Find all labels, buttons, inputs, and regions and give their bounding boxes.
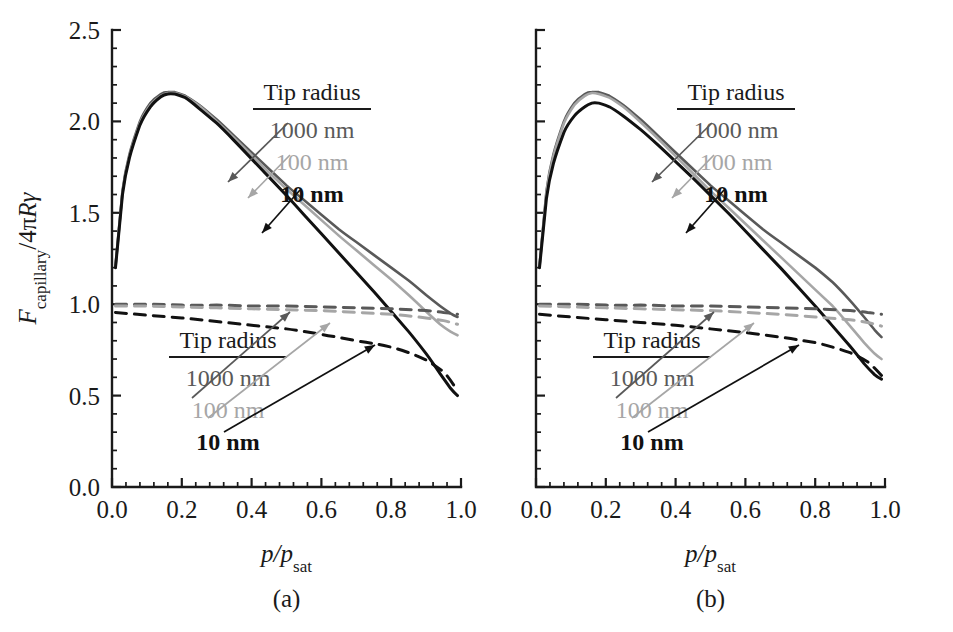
x-tick-label: 1.0 [445,496,476,523]
x-tick-label: 1.0 [869,496,900,523]
x-tick-label: 0.0 [96,496,127,523]
legend-dashed-entry: 1000 nm [610,365,695,391]
y-tick-label: 2.5 [69,17,100,44]
x-tick-label: 0.2 [590,496,621,523]
y-tick-label: 0.5 [69,383,100,410]
figure-container: 0.00.51.01.52.02.50.00.20.40.60.81.0p/ps… [0,0,953,632]
x-tick-label: 0.6 [306,496,337,523]
figure-svg: 0.00.51.01.52.02.50.00.20.40.60.81.0p/ps… [0,0,953,632]
y-tick-label: 1.5 [69,200,100,227]
legend-solid-entry: 100 nm [276,149,349,175]
y-tick-label: 2.0 [69,108,100,135]
x-tick-label: 0.8 [376,496,407,523]
legend-dashed-entry: 100 nm [192,397,265,423]
x-tick-label: 0.0 [520,496,551,523]
legend-solid-entry: 1000 nm [694,117,779,143]
y-tick-label: 1.0 [69,291,100,318]
legend-solid-entry: 10 nm [704,181,767,207]
x-tick-label: 0.8 [800,496,831,523]
legend-solid-entry: 10 nm [280,181,343,207]
legend-dashed-entry: 10 nm [620,429,683,455]
panel-label: (b) [696,585,725,613]
x-tick-label: 0.4 [236,496,268,523]
panel-label: (a) [273,585,301,613]
legend-dashed-entry: 1000 nm [186,365,271,391]
legend-solid-title: Tip radius [263,79,360,105]
x-tick-label: 0.6 [730,496,761,523]
y-tick-label: 0.0 [69,474,100,501]
legend-solid-entry: 100 nm [700,149,773,175]
x-tick-label: 0.2 [166,496,197,523]
x-tick-label: 0.4 [660,496,692,523]
legend-dashed-title: Tip radius [179,327,276,353]
legend-solid-title: Tip radius [687,79,784,105]
legend-dashed-title: Tip radius [603,327,700,353]
legend-dashed-entry: 100 nm [616,397,689,423]
legend-dashed-entry: 10 nm [196,429,259,455]
legend-solid-entry: 1000 nm [270,117,355,143]
